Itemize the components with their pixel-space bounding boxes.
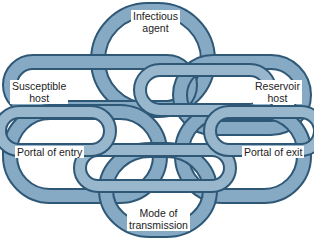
- label-infectious-agent: Infectious agent: [131, 10, 180, 34]
- label-line: Mode of: [129, 207, 188, 219]
- label-reservoir-host: Reservoir host: [253, 80, 302, 104]
- label-line: transmission: [129, 219, 188, 231]
- label-line: Infectious: [133, 10, 178, 22]
- label-line: Portal of entry: [17, 146, 82, 158]
- label-line: Reservoir: [255, 80, 300, 92]
- label-portal-of-exit: Portal of exit: [242, 146, 304, 158]
- label-line: Susceptible: [12, 80, 66, 92]
- chain-of-infection-diagram: [0, 0, 314, 241]
- label-line: host: [12, 92, 66, 104]
- label-line: agent: [133, 22, 178, 34]
- label-line: Portal of exit: [244, 146, 302, 158]
- label-line: host: [255, 92, 300, 104]
- label-susceptible-host: Susceptible host: [10, 80, 68, 104]
- label-portal-of-entry: Portal of entry: [15, 146, 84, 158]
- label-mode-of-transmission: Mode of transmission: [127, 207, 190, 231]
